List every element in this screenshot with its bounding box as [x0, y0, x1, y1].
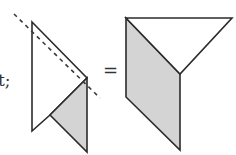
right-figure: [126, 18, 232, 150]
left-figure: [14, 14, 100, 152]
equals-sign: =: [103, 60, 118, 81]
